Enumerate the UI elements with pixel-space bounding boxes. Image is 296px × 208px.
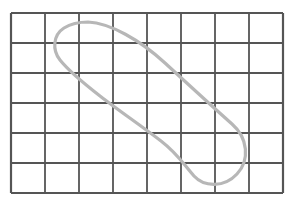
figure-svg xyxy=(0,0,296,208)
figure-canvas xyxy=(0,0,296,208)
